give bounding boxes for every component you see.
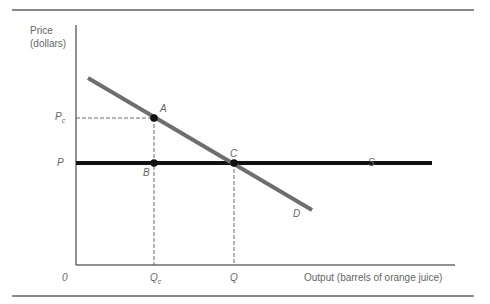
point-a — [150, 114, 158, 122]
point-c-label: C — [230, 149, 237, 159]
pc-main: P — [55, 111, 62, 122]
demand-curve — [88, 78, 312, 210]
point-a-label: A — [160, 104, 167, 114]
point-c — [230, 159, 238, 167]
y-axis-label-line2: (dollars) — [30, 39, 66, 49]
supply-label: S — [368, 158, 375, 168]
qc-main: Q — [150, 272, 158, 283]
pc-sub: c — [62, 117, 66, 124]
pc-price-label: Pc — [55, 112, 65, 124]
point-b-label: B — [143, 168, 150, 178]
q-quantity-label: Q — [230, 273, 238, 283]
qc-sub: c — [158, 278, 162, 285]
origin-label: 0 — [62, 273, 68, 283]
qc-quantity-label: Qc — [150, 273, 161, 285]
y-axis-label-line1: Price — [30, 26, 53, 36]
demand-label: D — [293, 209, 300, 219]
p-price-label: P — [57, 158, 64, 168]
point-b — [150, 159, 158, 167]
diagram-canvas — [0, 0, 490, 304]
x-axis-label: Output (barrels of orange juice) — [304, 273, 442, 283]
